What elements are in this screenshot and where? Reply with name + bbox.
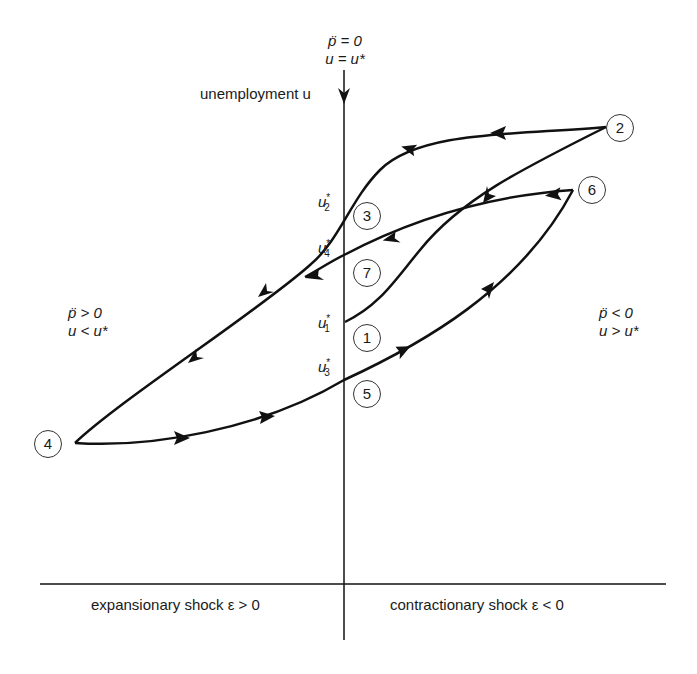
node-3: 3 xyxy=(353,202,381,230)
top-condition-line2: u = u* xyxy=(305,50,385,68)
tick-u1: u*1 xyxy=(318,313,330,334)
tick-u3: u*3 xyxy=(318,357,330,378)
node-4: 4 xyxy=(34,430,62,458)
node-7: 7 xyxy=(353,259,381,287)
node-5: 5 xyxy=(353,380,381,408)
arrow-icon xyxy=(305,268,324,280)
left-region-line2: u < u* xyxy=(68,322,108,340)
curve-6-to-7 xyxy=(305,190,573,277)
arrow-icon xyxy=(401,144,419,159)
tick-u4: u*4 xyxy=(318,238,330,259)
tick-u2: u*2 xyxy=(318,192,330,213)
node-2: 2 xyxy=(606,114,634,142)
left-shock-label: expansionary shock ε > 0 xyxy=(91,596,260,614)
left-region-line1: p̈ > 0 xyxy=(68,304,102,322)
right-region-line2: u > u* xyxy=(599,322,639,340)
curve-2-to-1 xyxy=(345,127,606,322)
right-region-line1: p̈ < 0 xyxy=(599,304,633,322)
right-shock-label: contractionary shock ε < 0 xyxy=(390,596,564,614)
top-condition-line1: p̈ = 0 xyxy=(305,32,385,50)
node-1: 1 xyxy=(353,324,381,352)
arrow-icon xyxy=(544,187,561,201)
node-6: 6 xyxy=(578,176,606,204)
vertical-axis-label: unemployment u xyxy=(200,85,311,103)
curve-2-to-4 xyxy=(75,127,606,443)
